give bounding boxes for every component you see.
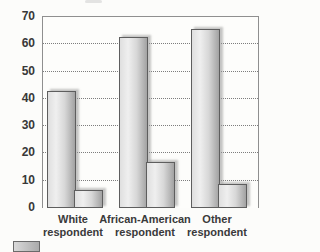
y-tick-label-70: 70 (22, 9, 35, 23)
y-tick-label-60: 60 (22, 36, 35, 50)
x-axis-labels: White respondentAfrican-American respond… (42, 213, 257, 243)
y-tick-label-0: 0 (28, 200, 35, 214)
y-tick-label-50: 50 (22, 64, 35, 78)
bar-chart-figure: 010203040506070 White respondentAfrican-… (0, 0, 320, 247)
bar-series-2-short-3 (218, 184, 247, 208)
legend-swatch-partial (13, 241, 40, 252)
y-tick-label-30: 30 (22, 118, 35, 132)
category-label-3: Other respondent (187, 213, 247, 239)
category-label-2: African-American respondent (99, 213, 191, 239)
y-tick-label-40: 40 (22, 91, 35, 105)
gridline-50 (43, 71, 258, 72)
bar-series-1-tall-2 (119, 37, 148, 208)
y-tick-label-20: 20 (22, 145, 35, 159)
bar-series-1-tall-1 (47, 91, 76, 208)
scan-artifact (85, 0, 102, 3)
category-label-1: White respondent (43, 213, 103, 239)
gridline-60 (43, 43, 258, 44)
y-tick-label-10: 10 (22, 173, 35, 187)
bar-series-1-tall-3 (191, 29, 220, 208)
bar-series-2-short-2 (146, 162, 175, 208)
y-axis: 010203040506070 (0, 16, 37, 207)
plot-area (42, 16, 259, 208)
bar-series-2-short-1 (74, 190, 103, 208)
